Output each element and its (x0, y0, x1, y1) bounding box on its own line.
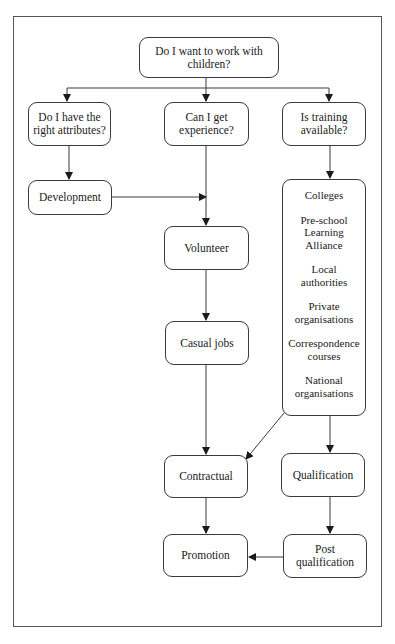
provider-item: National organisations (288, 374, 360, 399)
node-work-with-children: Do I want to work with children? (139, 37, 279, 78)
node-label: Do I want to work with children? (143, 45, 275, 71)
node-label: Volunteer (184, 242, 229, 255)
node-label: Do I have the right attributes? (32, 111, 107, 137)
node-contractual: Contractual (164, 455, 248, 498)
provider-item: Colleges (305, 189, 344, 202)
node-casual-jobs: Casual jobs (165, 321, 249, 365)
node-right-attributes: Do I have the right attributes? (28, 102, 111, 146)
node-label: Casual jobs (180, 337, 233, 350)
node-label: Can I get experience? (168, 111, 245, 137)
node-qualification: Qualification (281, 453, 365, 497)
node-promotion: Promotion (163, 534, 248, 577)
node-label: Promotion (181, 549, 230, 562)
node-label: Qualification (293, 469, 354, 482)
provider-item: Pre-school Learning Alliance (294, 214, 354, 252)
provider-item: Correspondence courses (284, 337, 364, 362)
node-label: Contractual (179, 470, 233, 483)
node-label: Development (39, 191, 101, 204)
node-development: Development (28, 180, 112, 215)
provider-item: Local authorities (294, 263, 354, 288)
provider-item: Private organisations (288, 300, 360, 325)
node-label: Post qualification (290, 543, 360, 569)
node-post-qualification: Post qualification (283, 534, 367, 578)
node-volunteer: Volunteer (164, 226, 249, 270)
node-training-available: Is training available? (282, 102, 366, 146)
node-get-experience: Can I get experience? (164, 102, 249, 146)
node-label: Is training available? (286, 111, 362, 137)
node-training-providers: Colleges Pre-school Learning Alliance Lo… (282, 179, 366, 416)
